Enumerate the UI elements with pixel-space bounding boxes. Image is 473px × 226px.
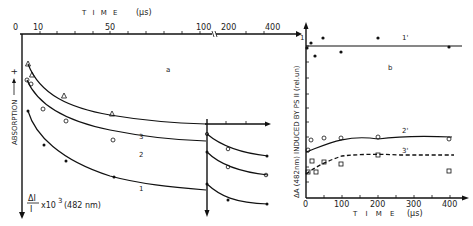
- tick-label-0: 0: [13, 23, 18, 32]
- panel-b-tick-100: 100: [334, 200, 349, 209]
- curve-2: [27, 80, 206, 141]
- tick-label-200: 200: [221, 23, 236, 32]
- panel-b-y-tick-1: 1: [300, 34, 304, 42]
- inset-y-arrow-icon: [205, 210, 210, 217]
- panel-a: 0 10 50 100 200 400 T I M E (µs) ABSORPT…: [10, 8, 302, 219]
- unit-frac-den: I: [30, 205, 32, 214]
- panel-b-tick-400: 400: [442, 200, 457, 209]
- panel-a-x-unit: (µs): [136, 8, 152, 17]
- curve-2-decay: [207, 152, 268, 175]
- curve-label-3-prime: 3': [402, 147, 408, 155]
- tick-label-400: 400: [265, 23, 280, 32]
- panel-b-x-title: T I M E: [352, 210, 397, 218]
- axis-break-mark: [212, 31, 214, 37]
- curve-label-1: 1: [139, 185, 143, 193]
- curve-1-decay: [207, 184, 268, 204]
- panel-a-label: a: [166, 66, 170, 74]
- markers-3: [26, 61, 115, 116]
- unit-exponent: 3: [58, 197, 62, 205]
- tick-label-100: 100: [196, 23, 211, 32]
- markers-1-prime: [305, 36, 450, 57]
- panel-a-y-title: ABSORPTION: [11, 99, 19, 145]
- panel-b-x-unit: (µs): [407, 209, 423, 218]
- markers-3-prime: [306, 153, 451, 174]
- panel-b-tick-300: 300: [406, 200, 421, 209]
- panel-a-y-title-group: ABSORPTION +: [10, 68, 19, 145]
- curve-label-3: 3: [139, 133, 143, 141]
- arrow-icon: [12, 78, 16, 83]
- unit-frac-num: ΔI: [28, 194, 36, 203]
- panel-b-y-title: ΔA (482nm) INDUCED BY PS II (rel.un): [293, 65, 301, 198]
- panel-b-tick-200: 200: [370, 200, 385, 209]
- panel-a-x-title: T I M E: [81, 9, 119, 17]
- unit-multiplier: x10: [41, 201, 56, 210]
- panel-b-y-arrow-icon: [304, 22, 309, 29]
- tick-label-10: 10: [33, 23, 43, 32]
- inset-x-arrow-icon: [265, 122, 271, 127]
- panel-b-tick-0: 0: [303, 200, 308, 209]
- panel-b-x-arrow-icon: [462, 196, 469, 201]
- y-arrow-icon: [19, 212, 25, 219]
- unit-wavelength: (482 nm): [64, 201, 101, 210]
- curve-label-2: 2: [139, 151, 143, 159]
- figure: 0 10 50 100 200 400 T I M E (µs) ABSORPT…: [0, 0, 473, 226]
- curve-3-decay: [207, 134, 268, 156]
- curve-label-2-prime: 2': [402, 127, 408, 135]
- panel-b-label: b: [388, 64, 393, 72]
- tick-label-50: 50: [105, 23, 115, 32]
- curve-label-1-prime: 1': [402, 34, 408, 42]
- panel-b: 1 ΔA (482nm) INDUCED BY PS II (rel.un) 0…: [293, 22, 469, 218]
- plus-sign: +: [10, 68, 19, 75]
- curve-3: [28, 64, 206, 124]
- markers-1: [27, 110, 116, 179]
